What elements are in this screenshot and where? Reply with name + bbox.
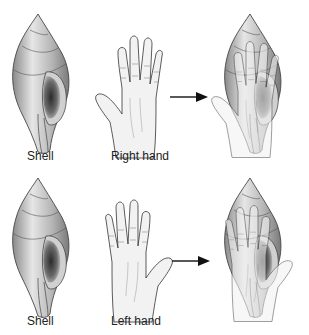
left-hand-illustration [98, 192, 178, 327]
hand-label: Left hand [111, 314, 161, 328]
arrow-icon [170, 256, 212, 266]
right-hand-illustration [92, 28, 172, 163]
shell-label: Shell [27, 314, 54, 328]
shell-illustration [8, 14, 78, 159]
arrow-icon [168, 92, 210, 102]
superimposed-shell-right-hand-illustration [210, 14, 290, 159]
shell-illustration [8, 178, 78, 323]
superimposed-shell-left-hand-illustration [216, 178, 296, 323]
hand-label: Right hand [111, 149, 169, 163]
shell-label: Shell [27, 149, 54, 163]
